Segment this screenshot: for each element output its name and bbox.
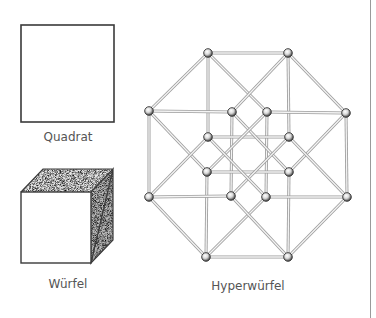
hypercube-edge-highlight bbox=[288, 197, 347, 257]
hypercube-vertex bbox=[262, 193, 271, 202]
hypercube-vertex bbox=[145, 193, 154, 202]
hypercube-edge-highlight bbox=[149, 53, 208, 111]
hypercube-edge-highlight bbox=[289, 113, 346, 172]
hypercube-vertex bbox=[145, 107, 154, 116]
hypercube-edges bbox=[149, 53, 347, 257]
hypercube-vertex bbox=[202, 253, 211, 262]
hypercube-vertex bbox=[343, 193, 352, 202]
hypercube-vertex bbox=[263, 108, 272, 117]
square-label: Quadrat bbox=[28, 130, 108, 144]
hypercube-vertex bbox=[285, 133, 294, 142]
hypercube-vertex bbox=[284, 49, 293, 58]
cube-label: Würfel bbox=[28, 277, 108, 291]
hypercube-label: Hyperwürfel bbox=[198, 279, 298, 293]
hypercube-edge-highlight bbox=[149, 111, 207, 172]
hypercube-vertex bbox=[203, 168, 212, 177]
square-shape bbox=[21, 25, 114, 122]
hypercube-vertex bbox=[228, 108, 237, 117]
hypercube-edge-highlight bbox=[207, 112, 267, 172]
square-figure bbox=[21, 25, 114, 122]
cube-front-face bbox=[21, 192, 91, 263]
hypercube-vertex bbox=[342, 109, 351, 118]
hypercube-vertices bbox=[145, 49, 352, 262]
hypercube-edge-highlight bbox=[289, 137, 347, 197]
hypercube-vertex bbox=[204, 49, 213, 58]
hypercube-edge-highlight bbox=[149, 197, 206, 257]
hypercube-vertex bbox=[285, 168, 294, 177]
column-divider bbox=[370, 0, 371, 318]
dimensions-figure: Quadrat Würfel Hyperwürfel bbox=[0, 0, 376, 318]
hypercube-edge-highlight bbox=[232, 112, 289, 172]
hypercube-edge-highlight bbox=[231, 137, 289, 196]
illustration-canvas bbox=[0, 0, 376, 318]
hypercube-edge-highlight bbox=[206, 197, 266, 257]
hypercube-vertex bbox=[204, 133, 213, 142]
hypercube-edge-highlight bbox=[288, 53, 346, 113]
hypercube-vertex bbox=[227, 192, 236, 201]
hypercube-edge-highlight bbox=[149, 137, 208, 197]
hypercube-vertex bbox=[284, 253, 293, 262]
cube-figure bbox=[21, 169, 113, 263]
